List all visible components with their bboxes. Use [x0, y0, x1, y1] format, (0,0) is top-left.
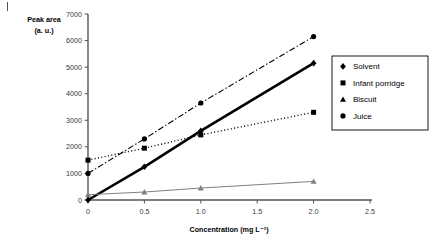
x-tick-label: 2.5: [365, 207, 375, 216]
x-tick-label: 1.0: [196, 207, 206, 216]
line-chart: 0100020003000400050006000700000.51.01.52…: [0, 0, 439, 242]
square-marker-icon: [341, 80, 346, 85]
y-tick-label: 4000: [66, 89, 82, 98]
corner-tick-mark: [7, 2, 8, 11]
legend-label: Juice: [353, 112, 372, 121]
legend-box: [332, 56, 428, 130]
data-point-juice: [85, 171, 90, 176]
data-point-infant-porridge: [311, 110, 316, 115]
y-tick-label: 6000: [66, 36, 82, 45]
data-point-juice: [198, 100, 203, 105]
y-tick-label: 1000: [66, 169, 82, 178]
y-tick-label: 5000: [66, 63, 82, 72]
data-point-juice: [142, 136, 147, 141]
y-axis-title: Peak area: [27, 15, 62, 24]
data-point-infant-porridge: [198, 132, 203, 137]
data-point-infant-porridge: [142, 146, 147, 151]
legend-label: Infant porridge: [353, 79, 405, 88]
y-axis-title: (a. u.): [34, 26, 54, 35]
x-tick-label: 0: [86, 207, 90, 216]
x-tick-label: 2.0: [309, 207, 319, 216]
x-tick-label: 0.5: [139, 207, 149, 216]
x-axis-title: Concentration (mg L⁻¹): [189, 225, 269, 234]
data-point-juice: [311, 34, 316, 39]
circle-marker-icon: [340, 113, 345, 118]
chart-figure: 0100020003000400050006000700000.51.01.52…: [0, 0, 439, 242]
legend-label: Solvent: [353, 62, 380, 71]
data-point-infant-porridge: [86, 158, 91, 163]
legend-label: Biscuit: [353, 95, 377, 104]
y-tick-label: 0: [78, 196, 82, 205]
x-tick-label: 1.5: [252, 207, 262, 216]
y-tick-label: 3000: [66, 116, 82, 125]
y-tick-label: 7000: [66, 10, 82, 19]
y-tick-label: 2000: [66, 142, 82, 151]
